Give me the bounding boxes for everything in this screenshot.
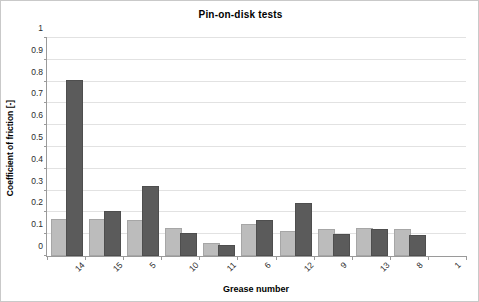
x-tick-label: 13 (378, 260, 392, 274)
y-axis-title-label: Coefficient of friction [-] (5, 99, 15, 195)
chart-container: Pin-on-disk tests Coefficient of frictio… (0, 0, 479, 302)
category-group (47, 38, 85, 256)
y-tick-label: 0.4 (31, 154, 43, 164)
x-tick-label: 5 (148, 260, 158, 270)
bar[interactable] (66, 80, 83, 256)
bar[interactable] (256, 220, 273, 256)
y-tick-label: 0.7 (31, 88, 43, 98)
bar[interactable] (295, 203, 312, 256)
x-tick-mark (466, 256, 467, 260)
x-tick-mark (85, 256, 86, 260)
x-tick-label: 1 (452, 260, 462, 270)
x-tick-mark (352, 256, 353, 260)
x-tick-mark (276, 256, 277, 260)
y-axis-title: Coefficient of friction [-] (3, 38, 17, 257)
chart-title: Pin-on-disk tests (1, 9, 479, 20)
x-tick-mark (161, 256, 162, 260)
x-tick-label: 6 (262, 260, 272, 270)
x-tick-mark (390, 256, 391, 260)
category-group (390, 38, 428, 256)
bar[interactable] (333, 234, 350, 256)
x-tick-mark (47, 256, 48, 260)
y-tick-label: 1 (38, 23, 43, 33)
x-tick-label: 11 (225, 260, 238, 273)
x-axis-title: Grease number (46, 284, 466, 294)
x-tick-label: 10 (187, 260, 201, 274)
bar[interactable] (180, 233, 197, 256)
category-group (314, 38, 352, 256)
x-tick-label: 15 (111, 260, 125, 274)
x-tick-label: 9 (338, 260, 348, 270)
y-tick-label: 0 (38, 241, 43, 251)
category-group (199, 38, 237, 256)
x-tick-mark (428, 256, 429, 260)
y-tick-label: 0.9 (31, 45, 43, 55)
y-tick-label: 0.3 (31, 176, 43, 186)
category-group (428, 38, 466, 256)
bar[interactable] (142, 186, 159, 256)
bar[interactable] (218, 245, 235, 256)
category-group (85, 38, 123, 256)
x-tick-label: 12 (301, 260, 315, 274)
x-tick-mark (123, 256, 124, 260)
category-group (352, 38, 390, 256)
y-tick-label: 0.2 (31, 197, 43, 207)
plot-area: 00.10.20.30.40.50.60.70.80.9114155101161… (46, 38, 466, 257)
x-tick-mark (237, 256, 238, 260)
category-group (123, 38, 161, 256)
category-group (161, 38, 199, 256)
bar[interactable] (371, 229, 388, 256)
x-tick-mark (314, 256, 315, 260)
bar[interactable] (409, 235, 426, 256)
bar[interactable] (104, 211, 121, 256)
category-group (276, 38, 314, 256)
y-tick-label: 0.6 (31, 110, 43, 120)
x-tick-label: 8 (414, 260, 424, 270)
y-tick-label: 0.1 (31, 219, 43, 229)
y-tick-label: 0.5 (31, 132, 43, 142)
x-tick-label: 14 (73, 260, 87, 274)
category-group (237, 38, 275, 256)
x-tick-mark (199, 256, 200, 260)
y-tick-label: 0.8 (31, 67, 43, 77)
